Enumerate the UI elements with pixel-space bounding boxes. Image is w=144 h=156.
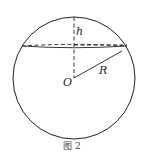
cap-ellipse-front <box>22 46 127 48</box>
height-label: h <box>76 25 83 38</box>
radius-label: R <box>98 64 107 77</box>
sphere-diagram: h O R <box>0 0 144 140</box>
figure-caption: 图 2 <box>0 139 144 152</box>
center-label: O <box>63 76 72 89</box>
sphere-radius <box>74 51 122 78</box>
